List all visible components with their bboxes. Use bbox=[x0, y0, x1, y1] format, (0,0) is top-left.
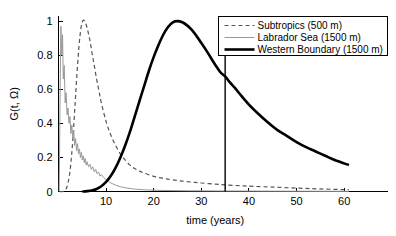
y-tick-label-0.4: 0.4 bbox=[37, 117, 52, 129]
x-tick-label-60: 60 bbox=[338, 195, 350, 207]
y-tick-label-0.8: 0.8 bbox=[37, 49, 52, 61]
legend-label-2: Labrador Sea (1500 m) bbox=[258, 32, 361, 43]
x-tick-label-10: 10 bbox=[100, 195, 112, 207]
x-tick-label-20: 20 bbox=[148, 195, 160, 207]
x-axis-title: time (years) bbox=[186, 214, 244, 226]
figure-container: 102030405060 00.20.40.60.81 time (years)… bbox=[0, 0, 396, 236]
y-tick-label-0.6: 0.6 bbox=[37, 83, 52, 95]
x-tick-label-40: 40 bbox=[243, 195, 255, 207]
legend: Subtropics (500 m)Labrador Sea (1500 m)W… bbox=[219, 17, 388, 56]
y-axis-title: G(t, Ω) bbox=[8, 87, 20, 120]
x-tick-label-50: 50 bbox=[290, 195, 302, 207]
y-tick-label-0.2: 0.2 bbox=[37, 151, 52, 163]
x-tick-label-30: 30 bbox=[195, 195, 207, 207]
legend-label-1: Subtropics (500 m) bbox=[258, 20, 342, 31]
y-tick-label-0: 0 bbox=[46, 186, 52, 198]
y-axis-tick-labels: 00.20.40.60.81 bbox=[37, 15, 52, 197]
legend-label-3: Western Boundary (1500 m) bbox=[258, 44, 383, 55]
line-chart: 102030405060 00.20.40.60.81 time (years)… bbox=[0, 0, 396, 236]
x-axis-tick-labels: 102030405060 bbox=[100, 195, 350, 207]
y-tick-label-1: 1 bbox=[46, 15, 52, 27]
